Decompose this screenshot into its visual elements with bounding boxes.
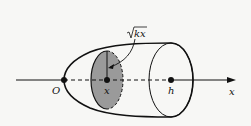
h-point [168,77,174,83]
paraboloid-diagram: O x h x kx [0,0,251,126]
origin-label: O [52,85,60,96]
radius-label: kx [134,28,146,39]
axis-label: x [229,86,235,97]
h-label: h [168,85,174,96]
x-point [104,77,110,83]
origin-point [61,77,67,83]
x-label: x [104,85,110,96]
axis-arrow-icon [227,77,236,83]
